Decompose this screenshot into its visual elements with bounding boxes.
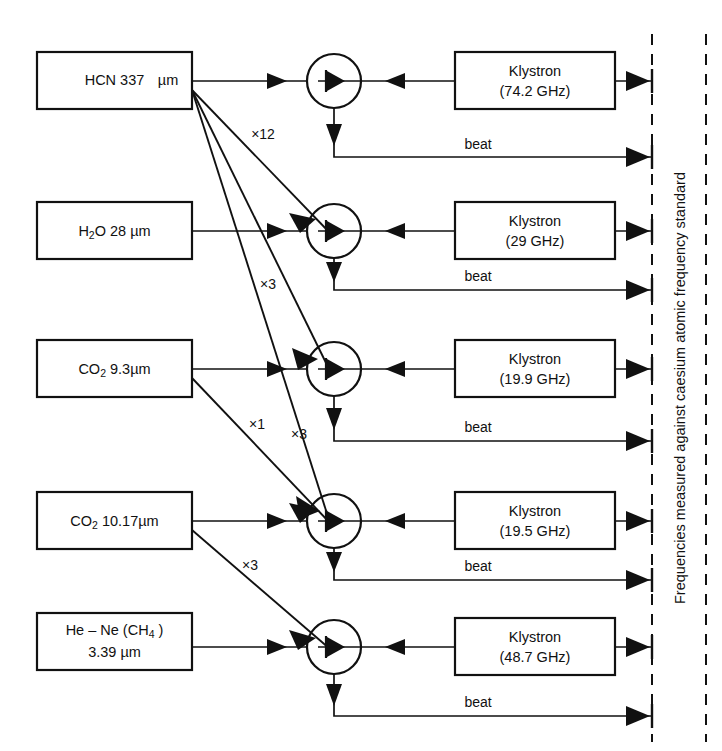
klystron-box-1 (455, 52, 615, 109)
multiplier-link-co2-m4 (192, 378, 330, 523)
diagram-canvas: HCN 337 µm Klystron (74.2 GHz) beat H2O … (0, 0, 722, 751)
multiplier-label-x12: ×12 (251, 126, 275, 142)
klystron-word-5: Klystron (509, 629, 561, 645)
multiplier-label-hcn-m4: ×3 (291, 426, 307, 442)
beat-path-1 (334, 108, 652, 157)
arrowhead-out-5 (626, 637, 650, 657)
arrowhead-kly-5 (385, 639, 405, 655)
beat-label-3: beat (464, 419, 491, 435)
frequency-chain-diagram: HCN 337 µm Klystron (74.2 GHz) beat H2O … (0, 0, 722, 751)
klystron-word-2: Klystron (509, 213, 561, 229)
klystron-word-1: Klystron (509, 63, 561, 79)
beat-path-4 (334, 548, 652, 580)
source-unit-1: µm (158, 72, 178, 88)
klystron-freq-3: (19.9 GHz) (500, 371, 571, 387)
multiplier-link-x12 (192, 90, 330, 233)
arrowhead-in-5 (267, 639, 287, 655)
beat-label-1: beat (464, 136, 491, 152)
beat-label-4: beat (464, 558, 491, 574)
arrowhead-in-4 (267, 513, 287, 529)
beat-label-2: beat (464, 268, 491, 284)
arrowhead-kly-1 (385, 73, 405, 89)
klystron-freq-4: (19.5 GHz) (500, 523, 571, 539)
multiplier-link-hcn-m4 (192, 90, 330, 523)
source-label-3: CO2 9.3µm (78, 360, 150, 378)
arrowhead-in-3 (267, 361, 287, 377)
beat-label-5: beat (464, 694, 491, 710)
arrowhead-in-1 (267, 73, 287, 89)
multiplier-link-co2b-m5 (192, 530, 330, 649)
multiplier-label-co2-m4: ×1 (249, 416, 265, 432)
klystron-freq-1: (74.2 GHz) (500, 83, 571, 99)
arrowhead-beat-down-1 (326, 124, 342, 146)
arrowhead-kly-2 (385, 223, 405, 239)
source-label-5-line2: 3.39 µm (88, 644, 141, 660)
beat-path-5 (334, 674, 652, 716)
klystron-word-3: Klystron (509, 351, 561, 367)
arrowhead-kly-4 (385, 513, 405, 529)
arrowhead-beat-down-2 (326, 262, 342, 282)
arrowhead-out-3 (626, 359, 650, 379)
arrowhead-out-1 (626, 71, 650, 91)
multiplier-label-co2b-m5: ×3 (242, 557, 258, 573)
klystron-word-4: Klystron (509, 503, 561, 519)
klystron-box-2 (455, 202, 615, 259)
arrowhead-beat-down-4 (326, 552, 342, 572)
arrowhead-beat-out-2 (626, 280, 650, 300)
klystron-freq-5: (48.7 GHz) (500, 649, 571, 665)
arrowhead-beat-down-3 (326, 408, 342, 430)
standard-caption: Frequencies measured against caesium ato… (672, 172, 688, 604)
klystron-box-3 (455, 340, 615, 397)
beat-path-2 (334, 258, 652, 290)
klystron-box-5 (455, 618, 615, 675)
arrowhead-out-2 (626, 221, 650, 241)
beat-path-3 (334, 396, 652, 441)
arrowhead-beat-out-3 (626, 431, 650, 451)
arrowhead-in-2 (267, 223, 287, 239)
arrowhead-beat-down-5 (326, 684, 342, 706)
arrowhead-kly-3 (385, 361, 405, 377)
source-label-1: HCN 337 (85, 72, 145, 88)
klystron-box-4 (455, 492, 615, 549)
klystron-freq-2: (29 GHz) (506, 233, 565, 249)
arrowhead-beat-out-1 (626, 147, 650, 167)
source-label-4: CO2 10.17µm (70, 512, 158, 530)
arrowhead-out-4 (626, 511, 650, 531)
arrowhead-beat-out-5 (626, 706, 650, 726)
arrowhead-beat-out-4 (626, 570, 650, 590)
multiplier-label-hcn-m3: ×3 (260, 276, 276, 292)
